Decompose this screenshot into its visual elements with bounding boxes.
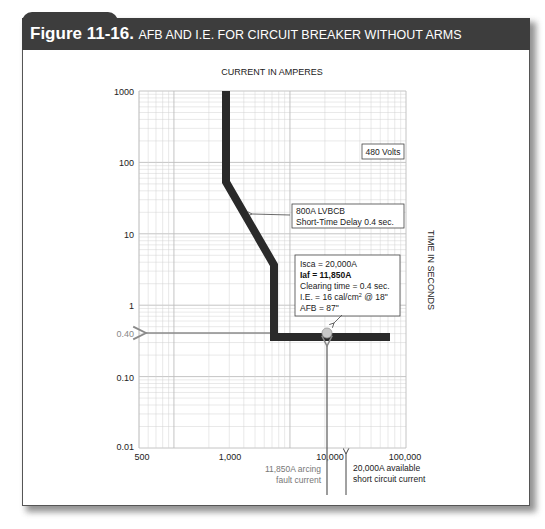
y-tick-100: 100 <box>119 158 134 168</box>
y-axis-title: TIME IN SECONDS <box>426 230 436 310</box>
afb-text: AFB = 87" <box>300 303 339 313</box>
y-tick-10: 10 <box>124 230 134 240</box>
breaker-label-pointer <box>252 214 290 215</box>
breaker-label-line1: 800A LVBCB <box>296 206 345 216</box>
y-tick-0-10: 0.10 <box>116 373 134 383</box>
tcc-chart: CURRENT IN AMPERES TIME IN SECONDS 1000 … <box>0 0 545 529</box>
operating-point-dot <box>322 328 332 338</box>
clearing-time-text: Clearing time = 0.4 sec. <box>300 281 390 291</box>
x-tick-100000: 100,000 <box>389 452 422 462</box>
y-tick-0-01: 0.01 <box>116 442 134 452</box>
voltage-label: 480 Volts <box>366 147 401 157</box>
x-tick-10000: 10,000 <box>316 452 344 462</box>
iaf-text: Iaf = 11,850A <box>300 270 351 280</box>
incident-energy-text: I.E. = 16 cal/cm2 @ 18" <box>300 292 388 302</box>
available-current-label-line2: short circuit current <box>353 474 426 484</box>
available-current-label-line1: 20,000A available <box>353 463 420 473</box>
breaker-label-line2: Short-Time Delay 0.4 sec. <box>296 217 394 227</box>
y-tick-1: 1 <box>129 301 134 311</box>
y-tick-0-40: 0.40 <box>116 329 134 339</box>
x-axis-title: CURRENT IN AMPERES <box>221 67 322 77</box>
arcing-current-label-line2: fault current <box>276 475 322 485</box>
isca-text: Isca = 20,000A <box>300 259 357 269</box>
x-tick-500: 500 <box>134 452 149 462</box>
arcing-current-label-line1: 11,850A arcing <box>265 464 321 474</box>
y-tick-1000: 1000 <box>114 87 134 97</box>
x-tick-1000: 1,000 <box>219 452 242 462</box>
